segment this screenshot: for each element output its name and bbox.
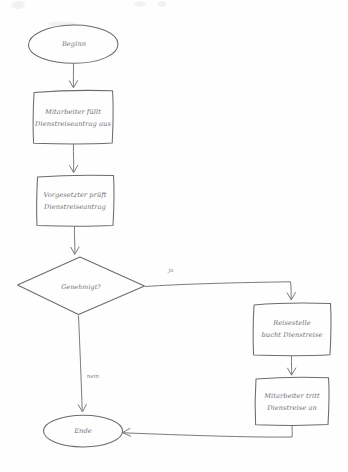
node-book-trip-label-line1: Reisestelle	[272, 319, 310, 327]
node-start-trip[interactable]: Mitarbeiter tritt Dienstreise an	[255, 377, 329, 425]
edge-start-trip-to-end	[123, 426, 293, 437]
edge-book-trip-to-start-trip	[288, 357, 296, 376]
flowchart-svg: Beginn Mitarbeiter füllt Dienstreiseantr…	[0, 0, 348, 472]
node-start[interactable]: Beginn	[28, 25, 118, 63]
edge-check-request-to-approved	[71, 227, 79, 254]
edge-label-yes: ja	[166, 267, 173, 274]
edge-start-to-fill-request	[69, 65, 77, 88]
node-fill-request-label-line2: Dienstreiseantrag aus	[34, 120, 111, 128]
node-book-trip[interactable]: Reisestelle bucht Dienstreise	[253, 303, 331, 356]
node-start-trip-label-line1: Mitarbeiter tritt	[263, 392, 320, 400]
node-approved-decision[interactable]: Genehmigt?	[18, 257, 145, 315]
node-start-label: Beginn	[61, 40, 86, 48]
node-approved-label: Genehmigt?	[61, 283, 101, 291]
node-check-request[interactable]: Vorgesetzter prüft Dienstreiseantrag	[37, 175, 114, 226]
edge-label-no: nein	[87, 373, 100, 379]
page-artifacts	[11, 1, 167, 27]
edge-approved-to-end	[78, 316, 86, 412]
node-book-trip-label-line2: bucht Dienstreise	[262, 331, 323, 339]
node-check-request-label-line2: Dienstreiseantrag	[43, 203, 106, 211]
node-end[interactable]: Ende	[43, 415, 122, 447]
flowchart-canvas: Beginn Mitarbeiter füllt Dienstreiseantr…	[0, 0, 348, 472]
node-end-label: Ende	[73, 427, 92, 435]
node-fill-request[interactable]: Mitarbeiter füllt Dienstreiseantrag aus	[33, 90, 113, 144]
node-check-request-label-line1: Vorgesetzter prüft	[43, 191, 106, 199]
edge-fill-request-to-check-request	[70, 145, 78, 173]
node-start-trip-label-line2: Dienstreise an	[266, 404, 317, 412]
node-fill-request-label-line1: Mitarbeiter füllt	[44, 108, 101, 116]
edge-approved-to-book-trip	[146, 282, 296, 300]
